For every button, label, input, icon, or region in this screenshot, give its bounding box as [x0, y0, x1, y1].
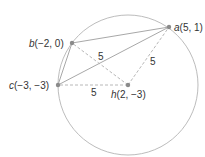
- label-c: c(−3, −3): [9, 80, 49, 91]
- point-b: [70, 41, 74, 45]
- radius-hb: [72, 43, 128, 85]
- point-c: [56, 83, 60, 87]
- point-a: [167, 25, 171, 29]
- radius-ha: [128, 27, 169, 85]
- label-b: b(−2, 0): [29, 38, 64, 49]
- length-label-hb: 5: [98, 51, 104, 62]
- circle-diagram: a(5, 1) b(−2, 0) c(−3, −3) h(2, −3) 5 5 …: [0, 0, 205, 157]
- label-h: h(2, −3): [111, 89, 146, 100]
- label-a: a(5, 1): [174, 22, 203, 33]
- length-label-hc: 5: [91, 87, 97, 98]
- point-h: [126, 83, 130, 87]
- length-label-ha: 5: [150, 56, 156, 67]
